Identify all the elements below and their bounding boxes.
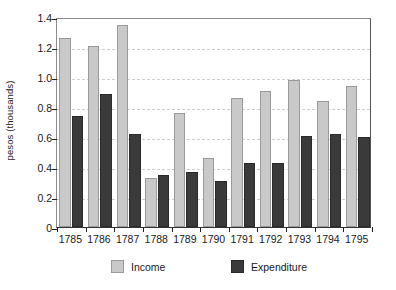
legend-swatch-expenditure: [231, 260, 244, 273]
bar-expenditure-1795: [358, 137, 370, 227]
y-axis-tick: [52, 199, 57, 200]
y-axis-tick: [52, 49, 57, 50]
x-axis-tick: [372, 227, 373, 232]
y-axis-tick-label: 1.2: [10, 43, 52, 54]
bar-expenditure-1790: [215, 181, 227, 228]
gridline: [57, 49, 370, 50]
bar-expenditure-1793: [301, 136, 313, 228]
plot-area: [56, 18, 371, 228]
x-axis-tick-label: 1791: [230, 233, 253, 245]
bar-income-1787: [117, 25, 129, 228]
bar-expenditure-1791: [244, 163, 256, 228]
y-axis-tick-label: 1.4: [10, 13, 52, 24]
y-axis-tick-label: 1.0: [10, 73, 52, 84]
x-axis-tick-label: 1786: [87, 233, 110, 245]
bar-income-1791: [231, 98, 243, 227]
bar-income-1792: [260, 91, 272, 228]
y-axis-tick-labels: 00.20.40.60.81.01.21.4: [8, 18, 52, 228]
bar-income-1789: [174, 113, 186, 227]
bar-expenditure-1788: [158, 175, 170, 228]
bar-chart-figure: pesos (thousands) 00.20.40.60.81.01.21.4…: [0, 0, 396, 290]
bar-expenditure-1789: [186, 172, 198, 228]
x-axis-tick-label: 1794: [316, 233, 339, 245]
bar-income-1793: [288, 80, 300, 227]
legend-label: Expenditure: [251, 261, 307, 273]
bar-income-1795: [346, 86, 358, 227]
y-axis-tick-label: 0: [10, 223, 52, 234]
x-axis-tick-label: 1785: [59, 233, 82, 245]
bar-income-1794: [317, 101, 329, 227]
gridline: [57, 79, 370, 80]
y-axis-tick: [52, 169, 57, 170]
bar-expenditure-1787: [129, 134, 141, 227]
y-axis-tick: [52, 109, 57, 110]
x-axis-tick-label: 1795: [345, 233, 368, 245]
bar-expenditure-1786: [100, 94, 112, 228]
x-axis-tick-label: 1790: [202, 233, 225, 245]
y-axis-tick-label: 0.6: [10, 133, 52, 144]
y-axis-tick-label: 0.4: [10, 163, 52, 174]
y-axis-tick-label: 0.8: [10, 103, 52, 114]
bar-income-1790: [203, 158, 215, 227]
bar-income-1788: [145, 178, 157, 228]
bar-expenditure-1794: [330, 134, 342, 227]
x-axis-tick-label: 1789: [173, 233, 196, 245]
x-axis-tick-label: 1787: [116, 233, 139, 245]
y-axis-tick: [52, 19, 57, 20]
y-axis-tick-label: 0.2: [10, 193, 52, 204]
y-axis-tick: [52, 79, 57, 80]
chart-legend: IncomeExpenditure: [56, 258, 371, 282]
bar-income-1786: [88, 46, 100, 228]
x-axis-tick-labels: 1785178617871788178917901791179217931794…: [56, 231, 371, 249]
bar-expenditure-1792: [272, 163, 284, 228]
legend-item-expenditure: Expenditure: [231, 260, 307, 273]
legend-swatch-income: [111, 260, 124, 273]
plot-inner: [57, 19, 370, 227]
x-axis-tick-label: 1793: [288, 233, 311, 245]
y-axis-tick: [52, 139, 57, 140]
bar-expenditure-1785: [72, 116, 84, 227]
x-axis-tick-label: 1788: [145, 233, 168, 245]
legend-label: Income: [131, 261, 165, 273]
bar-income-1785: [59, 38, 71, 227]
x-axis-tick-label: 1792: [259, 233, 282, 245]
legend-item-income: Income: [111, 260, 165, 273]
